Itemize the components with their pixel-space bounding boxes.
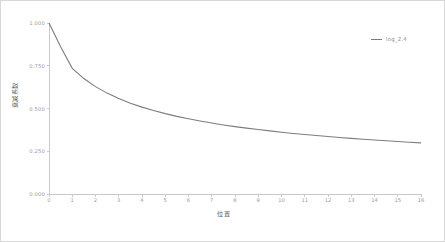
x-axis-tick-label: 8 (233, 197, 236, 203)
plot-area (49, 23, 421, 194)
x-axis-tick-label: 15 (394, 197, 401, 203)
y-axis-tick-label: 1.000 (29, 20, 45, 26)
legend-entry-label: log_2.4 (386, 36, 407, 42)
legend-line-swatch (371, 39, 382, 40)
x-axis-tick-label: 7 (210, 197, 213, 203)
x-axis-tick-label: 4 (140, 197, 143, 203)
x-axis-tick-label: 13 (348, 197, 355, 203)
x-axis-tick-label: 10 (278, 197, 285, 203)
y-axis-tick-label: 0.000 (29, 191, 45, 197)
y-axis-tick-label: 0.750 (29, 63, 45, 69)
y-axis-tick-label: 0.500 (29, 106, 45, 112)
x-axis-tick-label: 1 (71, 197, 74, 203)
y-axis-tick-labels: 0.0000.2500.5000.7501.000 (1, 23, 45, 194)
x-axis-tick-label: 5 (164, 197, 167, 203)
x-axis-tick-label: 3 (117, 197, 120, 203)
plot-svg (49, 23, 421, 194)
x-axis-tick-label: 12 (325, 197, 332, 203)
x-axis-tick-label: 11 (301, 197, 308, 203)
series-line-log24 (49, 23, 421, 143)
y-axis-tick-label: 0.250 (29, 148, 45, 154)
x-axis-tick-label: 14 (371, 197, 378, 203)
x-axis-tick-label: 16 (418, 197, 425, 203)
x-axis-tick-label: 6 (187, 197, 190, 203)
chart-legend: log_2.4 (369, 35, 409, 43)
x-axis-tick-label: 2 (94, 197, 97, 203)
x-axis-tick-labels: 012345678910111213141516 (49, 197, 421, 207)
axis-tick-marks (47, 23, 422, 197)
x-axis-tick-label: 0 (47, 197, 50, 203)
chart-figure: 0.0000.2500.5000.7501.000 衰减系数 012345678… (0, 0, 445, 242)
y-axis-title: 衰减系数 (10, 82, 19, 108)
x-axis-title: 位置 (1, 209, 445, 218)
x-axis-tick-label: 9 (257, 197, 260, 203)
